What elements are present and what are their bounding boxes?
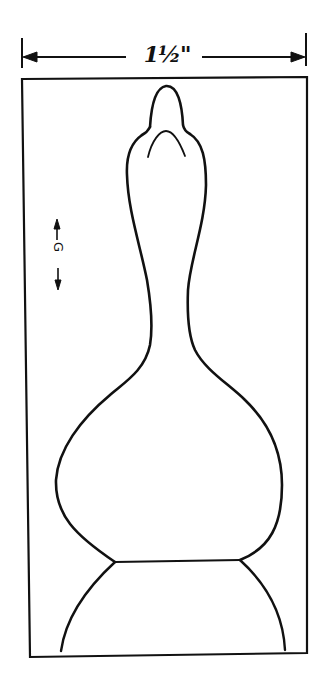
dimension-label: 1½" <box>132 40 202 68</box>
arrow-down-icon <box>55 280 61 290</box>
arrow-up-icon <box>54 219 60 229</box>
pattern-drawing <box>0 0 332 691</box>
grain-label: G <box>51 241 65 253</box>
arrow-left-icon <box>23 52 37 62</box>
arrow-right-icon <box>291 52 305 62</box>
stock-outline <box>22 77 307 657</box>
grain-arrows <box>54 219 61 290</box>
figure-outline <box>56 86 285 651</box>
